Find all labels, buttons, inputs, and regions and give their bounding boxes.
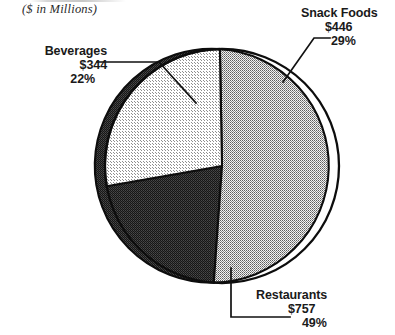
snack-foods-name: Snack Foods (301, 6, 395, 20)
beverages-name: Beverages (0, 44, 108, 58)
beverages-percent: 22% (0, 72, 108, 86)
snack-foods-percent: 29% (331, 34, 395, 48)
pie-slice-snack-foods (214, 49, 329, 283)
callout-label-snack-foods: Snack Foods $446 29% (301, 6, 395, 48)
callout-label-restaurants: Restaurants $757 49% (256, 288, 366, 330)
pie-chart-figure: ($ in Millions) (0, 0, 395, 335)
snack-foods-value: $446 (325, 20, 395, 34)
pie-slice-beverages (105, 49, 222, 186)
restaurants-value: $757 (288, 302, 366, 316)
restaurants-percent: 49% (302, 316, 366, 330)
beverages-value: $344 (0, 58, 108, 72)
restaurants-name: Restaurants (256, 288, 366, 302)
callout-label-beverages: Beverages $344 22% (0, 44, 108, 86)
